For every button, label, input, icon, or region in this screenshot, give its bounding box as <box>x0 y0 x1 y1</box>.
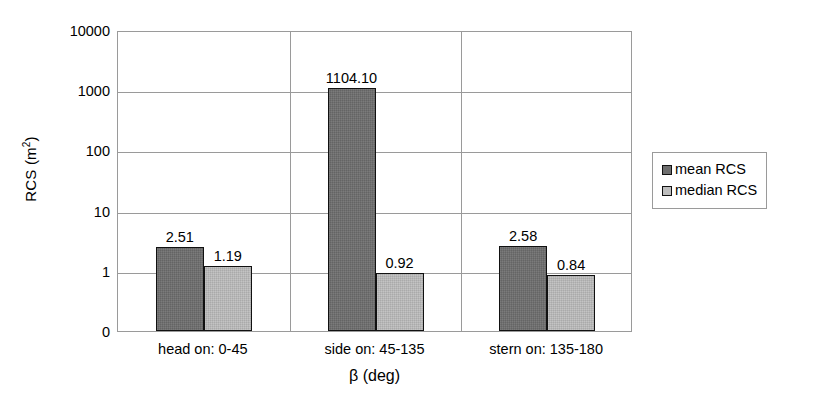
x-axis-tick-2: stern on: 135-180 <box>460 341 632 357</box>
bar-value-label: 2.58 <box>477 229 569 244</box>
y-axis-tick-0: 0 <box>40 325 110 340</box>
bar-value-label: 0.92 <box>354 256 446 271</box>
legend-item-mean-rcs[interactable]: mean RCS <box>662 159 757 180</box>
bar-value-label: 2.51 <box>134 230 226 245</box>
y-axis-tick-10: 10 <box>40 204 110 219</box>
y-axis-tick-1: 1 <box>40 265 110 280</box>
x-axis-tick-1: side on: 45-135 <box>289 341 461 357</box>
gridline-vertical <box>290 32 291 331</box>
rcs-bar-chart: RCS (m2) 1000010001001010 2.511.191104.1… <box>0 0 826 413</box>
gridline-vertical <box>461 32 462 331</box>
x-axis-title: β (deg) <box>117 367 632 385</box>
plot-area: 2.511.191104.100.922.580.84 <box>117 31 632 332</box>
y-axis-title-base: RCS (m <box>22 147 39 202</box>
y-axis-title-exponent: 2 <box>21 141 32 147</box>
bar-value-label: 0.84 <box>525 258 617 273</box>
x-axis-tick-0: head on: 0-45 <box>117 341 289 357</box>
y-axis-title-tail: ) <box>22 136 39 141</box>
bar-value-label: 1.19 <box>182 249 274 264</box>
y-axis-tick-labels: 1000010001001010 <box>38 0 110 413</box>
y-axis-tick-1000: 1000 <box>40 84 110 99</box>
legend-item-label: mean RCS <box>675 162 746 177</box>
bar-median-rcs-2 <box>547 275 595 331</box>
y-axis-tick-100: 100 <box>40 144 110 159</box>
y-axis-title: RCS (m2) <box>21 99 39 239</box>
legend: mean RCSmedian RCS <box>652 152 767 209</box>
bar-median-rcs-1 <box>376 273 424 331</box>
legend-swatch-icon <box>662 186 672 196</box>
bar-mean-rcs-1 <box>328 88 376 331</box>
bar-median-rcs-0 <box>204 266 252 331</box>
y-axis-tick-10000: 10000 <box>40 24 110 39</box>
legend-item-label: median RCS <box>675 183 757 198</box>
legend-swatch-icon <box>662 165 672 175</box>
bar-value-label: 1104.10 <box>306 71 398 86</box>
legend-item-median-rcs[interactable]: median RCS <box>662 180 757 201</box>
